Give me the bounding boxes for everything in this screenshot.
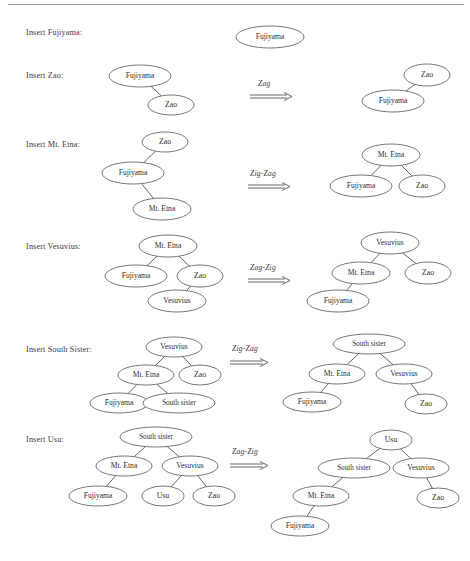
node-label: Vesuvius xyxy=(176,461,203,470)
tree-edge xyxy=(347,354,359,365)
double-arrow-icon xyxy=(230,461,268,470)
node-ellipse xyxy=(399,175,445,197)
node-label: Vesuvius xyxy=(390,369,417,378)
row-insert-vesuvius-after-tree: VesuviusMt. EtnaZaoFujiyama xyxy=(307,232,451,312)
tree-edge xyxy=(128,384,137,393)
node-label: Fujiyama xyxy=(84,491,113,500)
tree-edge xyxy=(167,447,179,457)
tree-node: Zao xyxy=(142,132,188,152)
top-horizontal-rule xyxy=(8,4,464,5)
node-ellipse xyxy=(393,458,449,478)
tree-node: Fujiyama xyxy=(283,392,341,412)
tree-node: Fujiyama xyxy=(307,290,369,312)
node-ellipse xyxy=(193,486,235,506)
row-insert-south-sister-before-tree: VesuviusMt. EtnaZaoFujiyamaSouth sister xyxy=(90,337,221,413)
node-label: Zao xyxy=(165,100,177,109)
tree-node: South sister xyxy=(120,427,192,447)
row-insert-south-sister-operation-label: Zig-Zag xyxy=(232,344,258,353)
node-ellipse xyxy=(177,265,223,287)
row-insert-vesuvius-operation-label: Zag-Zig xyxy=(250,263,276,272)
node-ellipse xyxy=(96,456,152,476)
node-label: Mt. Etna xyxy=(111,461,138,470)
tree-edge xyxy=(366,448,379,458)
node-ellipse xyxy=(102,162,164,184)
tree-edge xyxy=(198,476,207,487)
tree-node: Mt. Etna xyxy=(332,262,390,284)
row-insert-mt-etna-before-tree: ZaoFujiyamaMt. Etna xyxy=(102,132,191,220)
node-label: Mt. Etna xyxy=(378,150,405,159)
tree-edge xyxy=(427,478,433,489)
tree-node: Vesuvius xyxy=(146,337,202,357)
node-ellipse xyxy=(362,90,424,112)
tree-node: Zao xyxy=(405,262,451,284)
node-ellipse xyxy=(307,290,369,312)
node-ellipse xyxy=(236,26,304,48)
tree-node: South sister xyxy=(143,393,215,413)
node-ellipse xyxy=(179,365,221,385)
row-insert-zao-label: Insert Zao: xyxy=(26,71,63,80)
node-ellipse xyxy=(362,144,420,166)
node-ellipse xyxy=(376,364,432,384)
node-label: Mt. Etna xyxy=(324,369,351,378)
node-label: Mt. Etna xyxy=(155,241,182,250)
node-label: Zao xyxy=(416,181,428,190)
tree-edge xyxy=(307,506,314,517)
node-label: Mt. Etna xyxy=(149,204,176,213)
node-ellipse xyxy=(333,334,405,354)
node-label: South sister xyxy=(162,399,196,407)
node-label: Zao xyxy=(432,493,444,502)
node-label: South sister xyxy=(352,340,386,348)
tree-edge xyxy=(155,356,164,365)
node-label: Zao xyxy=(421,70,433,79)
tree-edge xyxy=(144,151,156,163)
row-insert-usu-after-tree: UsuSouth sisterVesuviusMt. EtnaZaoFujiya… xyxy=(271,430,459,536)
node-ellipse xyxy=(148,290,206,312)
tree-node: Zao xyxy=(148,95,194,115)
tree-edge xyxy=(157,384,168,393)
node-ellipse xyxy=(332,262,390,284)
tree-edge xyxy=(183,356,192,365)
row-insert-south-sister-after-tree: South sisterMt. EtnaVesuviusFujiyamaZao xyxy=(283,334,447,414)
double-arrow-icon xyxy=(248,182,290,191)
node-label: Usu xyxy=(385,435,398,444)
node-ellipse xyxy=(370,430,412,450)
tree-node: Fujiyama xyxy=(236,26,304,48)
node-label: Vesuvius xyxy=(163,296,190,305)
tree-edge xyxy=(406,84,415,91)
double-arrow-icon xyxy=(250,92,292,101)
node-label: Fujiyama xyxy=(119,168,148,177)
tree-edge xyxy=(147,256,157,266)
node-ellipse xyxy=(162,456,218,476)
node-ellipse xyxy=(283,392,341,412)
node-label: Fujiyama xyxy=(286,521,315,530)
row-insert-usu-label: Insert Usu: xyxy=(26,435,64,444)
node-ellipse xyxy=(271,516,329,536)
tree-edge xyxy=(371,165,381,175)
tree-node: Vesuvius xyxy=(148,290,206,312)
tree-edge xyxy=(179,256,190,266)
node-ellipse xyxy=(139,235,197,257)
row-insert-zao-after-tree: ZaoFujiyama xyxy=(362,64,450,112)
tree-node: Fujiyama xyxy=(109,65,171,87)
tree-node: Vesuvius xyxy=(393,458,449,478)
node-ellipse xyxy=(318,458,390,478)
tree-node: Fujiyama xyxy=(330,175,392,197)
row-insert-mt-etna-after-tree: Mt. EtnaFujiyamaZao xyxy=(330,144,445,197)
tree-node: Vesuvius xyxy=(376,364,432,384)
node-label: Vesuvius xyxy=(376,238,403,247)
tree-node: Usu xyxy=(370,430,412,450)
tree-node: Zao xyxy=(193,486,235,506)
row-insert-south-sister-label: Insert South Sister: xyxy=(26,345,92,354)
tree-edge xyxy=(142,184,154,199)
double-arrow-icon xyxy=(230,358,268,367)
splay-tree-figure: FujiyamaFujiyamaZaoZaoFujiyamaZaoFujiyam… xyxy=(0,0,470,561)
tree-edge xyxy=(411,384,419,395)
node-label: Zao xyxy=(194,271,206,280)
tree-node: Fujiyama xyxy=(90,393,148,413)
tree-node: Fujiyama xyxy=(69,486,127,506)
node-label: Mt. Etna xyxy=(133,370,160,379)
node-ellipse xyxy=(133,198,191,220)
tree-edge xyxy=(403,253,417,264)
node-ellipse xyxy=(361,232,419,254)
node-ellipse xyxy=(142,132,188,152)
